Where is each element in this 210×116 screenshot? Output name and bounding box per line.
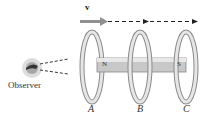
ring-b-label: B bbox=[137, 103, 143, 114]
velocity-arrow bbox=[80, 17, 198, 26]
ring-c-label: C bbox=[183, 103, 190, 114]
diagram-canvas bbox=[0, 0, 210, 116]
ring-a-label: A bbox=[88, 103, 94, 114]
velocity-label: v bbox=[85, 2, 90, 12]
observer-eye-icon bbox=[22, 58, 68, 78]
observer-label: Observer bbox=[8, 80, 41, 90]
bar-magnet bbox=[97, 58, 186, 72]
south-pole-label: S bbox=[177, 60, 181, 68]
north-pole-label: N bbox=[102, 60, 107, 68]
